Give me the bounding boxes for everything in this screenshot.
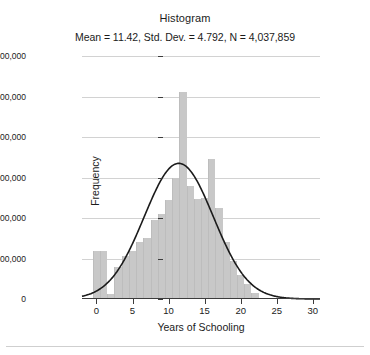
- y-axis-label: Frequency: [89, 96, 101, 266]
- y-tick-label: 0: [0, 294, 26, 304]
- x-tick-mark: [169, 299, 170, 304]
- x-tick-label: 25: [262, 305, 292, 316]
- x-tick-label: 0: [81, 305, 111, 316]
- x-tick-label: 15: [190, 305, 220, 316]
- y-tick-label: 300,000: [0, 173, 26, 183]
- x-tick-mark: [205, 299, 206, 304]
- normal-curve: [82, 56, 320, 299]
- x-tick-mark: [313, 299, 314, 304]
- y-tick-mark: [158, 218, 163, 219]
- y-tick-mark: [158, 137, 163, 138]
- x-tick-mark: [241, 299, 242, 304]
- x-axis-label: Years of Schooling: [82, 321, 320, 333]
- y-tick-label: 400,000: [0, 132, 26, 142]
- y-tick-mark: [158, 97, 163, 98]
- x-axis: 051015202530 Years of Schooling: [82, 299, 320, 349]
- y-tick-mark: [158, 259, 163, 260]
- histogram-figure: Histogram Mean = 11.42, Std. Dev. = 4.79…: [0, 0, 370, 355]
- y-tick-label: 200,000: [0, 213, 26, 223]
- bottom-divider: [6, 346, 364, 347]
- y-tick-label: 100,000: [0, 254, 26, 264]
- y-tick-mark: [158, 178, 163, 179]
- x-tick-mark: [277, 299, 278, 304]
- chart-title: Histogram: [0, 12, 370, 24]
- y-tick-label: 500,000: [0, 92, 26, 102]
- chart-subtitle: Mean = 11.42, Std. Dev. = 4.792, N = 4,0…: [0, 31, 370, 43]
- x-tick-label: 30: [298, 305, 328, 316]
- y-tick-label: 600,000: [0, 51, 26, 61]
- x-tick-label: 20: [226, 305, 256, 316]
- x-tick-label: 5: [118, 305, 148, 316]
- x-tick-label: 10: [154, 305, 184, 316]
- x-tick-mark: [133, 299, 134, 304]
- x-tick-mark: [96, 299, 97, 304]
- y-tick-mark: [158, 56, 163, 57]
- plot-area: 0100,000200,000300,000400,000500,000600,…: [82, 56, 320, 299]
